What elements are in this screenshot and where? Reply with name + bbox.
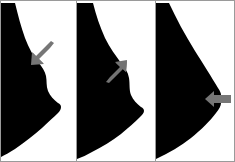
clinical-silhouette-figure: Panel A Panel B	[0, 0, 235, 162]
figure-frame	[0, 0, 235, 162]
